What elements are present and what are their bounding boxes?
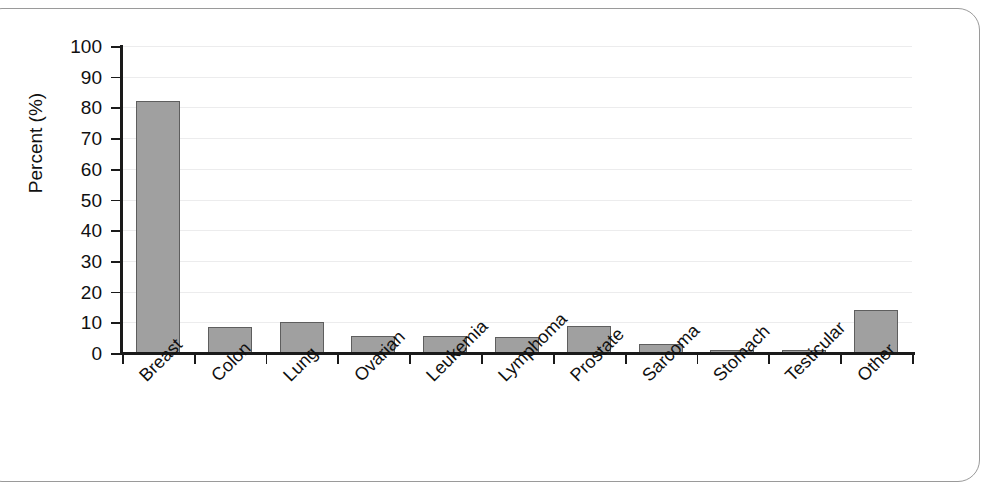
x-axis-tick: [194, 353, 196, 364]
gridline: [122, 169, 912, 170]
y-axis-tick-label: 30: [56, 251, 102, 270]
bar: [423, 336, 467, 353]
x-axis-tick: [625, 353, 627, 364]
x-axis-tick: [337, 353, 339, 364]
x-axis-tick: [912, 353, 914, 364]
y-axis-tick: [111, 322, 122, 324]
bar: [351, 336, 395, 353]
gridline: [122, 292, 912, 293]
y-axis-tick-label: 60: [56, 159, 102, 178]
x-axis-tick: [266, 353, 268, 364]
gridline: [122, 200, 912, 201]
y-axis-tick: [111, 353, 122, 355]
y-axis-tick-label: 10: [56, 313, 102, 332]
bar: [208, 327, 252, 353]
y-axis-tick-label: 50: [56, 190, 102, 209]
x-axis-tick: [553, 353, 555, 364]
y-axis-tick: [111, 107, 122, 109]
x-axis-tick: [840, 353, 842, 364]
y-axis-tick: [111, 261, 122, 263]
gridline: [122, 77, 912, 78]
y-axis-tick-labels: 0102030405060708090100: [56, 0, 102, 492]
y-axis-tick-label: 0: [56, 344, 102, 363]
chart-figure: Percent (%) 0102030405060708090100 Breas…: [0, 0, 993, 492]
y-axis-tick: [111, 230, 122, 232]
bar: [136, 101, 180, 353]
y-axis-title: Percent (%): [25, 43, 47, 243]
y-axis-tick: [111, 169, 122, 171]
y-axis-tick: [111, 46, 122, 48]
y-axis-tick-label: 100: [56, 37, 102, 56]
x-axis-tick: [768, 353, 770, 364]
y-axis-tick: [111, 292, 122, 294]
bar: [280, 322, 324, 353]
y-axis-tick-label: 70: [56, 129, 102, 148]
y-axis-tick-label: 20: [56, 282, 102, 301]
y-axis-tick-label: 40: [56, 221, 102, 240]
plot-area: [122, 46, 912, 353]
y-axis-tick: [111, 200, 122, 202]
y-axis-tick-label: 90: [56, 67, 102, 86]
bar: [495, 337, 539, 353]
gridline: [122, 261, 912, 262]
x-axis-tick: [122, 353, 124, 364]
gridline: [122, 138, 912, 139]
x-axis-tick: [481, 353, 483, 364]
bar: [854, 310, 898, 353]
gridline: [122, 230, 912, 231]
gridline: [122, 107, 912, 108]
x-axis-tick: [409, 353, 411, 364]
y-axis-tick-label: 80: [56, 98, 102, 117]
y-axis-tick: [111, 77, 122, 79]
y-axis-tick: [111, 138, 122, 140]
bar: [567, 326, 611, 353]
x-axis-tick: [697, 353, 699, 364]
gridline: [122, 322, 912, 323]
gridline: [122, 46, 912, 47]
x-axis-line: [120, 352, 915, 355]
